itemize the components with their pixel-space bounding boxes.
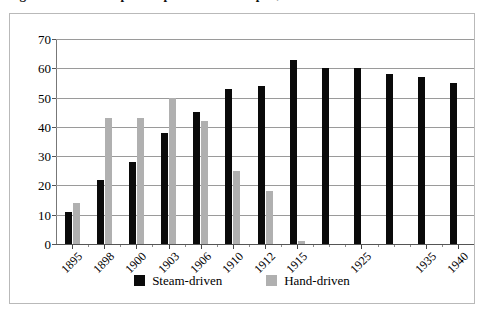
page-title: Figure: Number of spindles per worker in… bbox=[8, 0, 340, 3]
bar-steam-driven-idx8 bbox=[322, 68, 329, 244]
plot-area: 010203040506070 bbox=[56, 39, 474, 244]
x-axis-label-1940: 1940 bbox=[445, 250, 470, 275]
bar-steam-driven-1912 bbox=[258, 86, 265, 244]
bar-steam-driven-1906 bbox=[193, 112, 200, 244]
y-tick-label-70: 70 bbox=[38, 33, 51, 46]
x-axis-label-1925: 1925 bbox=[348, 250, 373, 275]
y-tick-label-50: 50 bbox=[38, 91, 51, 104]
x-axis-label-1935: 1935 bbox=[413, 250, 438, 275]
bar-steam-driven-1898 bbox=[97, 180, 104, 244]
bar-hand-driven-1910 bbox=[233, 171, 240, 244]
legend-swatch-hand-icon bbox=[266, 275, 277, 286]
bar-hand-driven-1895 bbox=[73, 203, 80, 244]
x-axis-label-1912: 1912 bbox=[252, 250, 277, 275]
x-axis-label-1895: 1895 bbox=[59, 250, 84, 275]
x-axis-label-1898: 1898 bbox=[91, 250, 116, 275]
bar-steam-driven-1915 bbox=[290, 60, 297, 245]
x-axis-label-1906: 1906 bbox=[188, 250, 213, 275]
bar-steam-driven-idx10 bbox=[386, 74, 393, 244]
bar-steam-driven-1900 bbox=[129, 162, 136, 244]
bar-steam-driven-1910 bbox=[225, 89, 232, 244]
legend-label-steam: Steam-driven bbox=[152, 274, 222, 287]
y-tick-label-40: 40 bbox=[38, 120, 51, 133]
bar-steam-driven-1895 bbox=[65, 212, 72, 244]
legend-item-steam[interactable]: Steam-driven bbox=[134, 274, 222, 287]
bar-steam-driven-1940 bbox=[450, 83, 457, 244]
bar-hand-driven-1898 bbox=[105, 118, 112, 244]
x-axis-line bbox=[56, 244, 474, 245]
chart-title-strip: Figure: Number of spindles per worker in… bbox=[0, 0, 486, 11]
x-axis-label-1903: 1903 bbox=[156, 250, 181, 275]
bar-series-container bbox=[56, 39, 474, 244]
chart-legend: Steam-drivenHand-driven bbox=[10, 274, 474, 287]
y-tick-label-30: 30 bbox=[38, 150, 51, 163]
x-axis-label-1900: 1900 bbox=[123, 250, 148, 275]
bar-steam-driven-1903 bbox=[161, 133, 168, 244]
legend-item-hand[interactable]: Hand-driven bbox=[266, 274, 350, 287]
y-tick-label-60: 60 bbox=[38, 62, 51, 75]
bar-hand-driven-1903 bbox=[169, 98, 176, 244]
legend-label-hand: Hand-driven bbox=[284, 274, 350, 287]
bar-steam-driven-1925 bbox=[354, 68, 361, 244]
y-tick-label-10: 10 bbox=[38, 208, 51, 221]
x-axis-label-1910: 1910 bbox=[220, 250, 245, 275]
bar-hand-driven-1900 bbox=[137, 118, 144, 244]
y-tick-label-0: 0 bbox=[45, 238, 52, 251]
legend-swatch-steam-icon bbox=[134, 275, 145, 286]
chart-frame: 010203040506070 189518981900190319061910… bbox=[9, 13, 475, 304]
bar-hand-driven-1906 bbox=[201, 121, 208, 244]
x-axis-label-1915: 1915 bbox=[284, 250, 309, 275]
bar-hand-driven-1912 bbox=[266, 191, 273, 244]
y-tick-label-20: 20 bbox=[38, 179, 51, 192]
bar-steam-driven-1935 bbox=[418, 77, 425, 244]
